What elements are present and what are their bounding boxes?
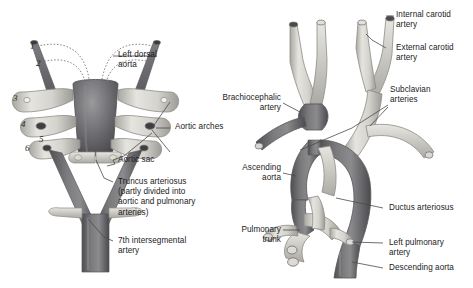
label-left-dorsal-aorta: Left dorsal aorta (118, 50, 198, 70)
label-descending-aorta: Descending aorta (389, 263, 473, 273)
label-external-carotid-artery: External carotid artery (396, 43, 473, 63)
label-ductus-arteriosus: Ductus arteriosus (389, 203, 473, 213)
label-pulmonary-trunk: Pulmonary trunk (200, 225, 281, 245)
arch-number-4: 4 (21, 119, 26, 129)
label-brachiocephalic-artery: Brachiocephalic artery (196, 93, 281, 113)
label-subclavian-arteries: Subclavian arteries (390, 85, 460, 105)
label-ascending-aorta: Ascending aorta (200, 163, 281, 183)
arch-number-3: 3 (13, 93, 18, 103)
label-aortic-arches: Aortic arches (175, 122, 245, 132)
arch-number-6: 6 (25, 143, 30, 153)
arch-number-1: 1 (30, 41, 35, 51)
anatomy-figure: 1 2 3 4 5 6 Left dorsal aorta Aortic arc… (0, 0, 473, 288)
label-left-pulmonary-artery: Left pulmonary artery (389, 238, 465, 258)
label-aortic-sac: Aortic sac (118, 155, 188, 165)
arch-number-2: 2 (36, 58, 41, 68)
arch-number-5: 5 (39, 134, 44, 144)
label-internal-carotid-artery: Internal carotid artery (396, 10, 473, 30)
